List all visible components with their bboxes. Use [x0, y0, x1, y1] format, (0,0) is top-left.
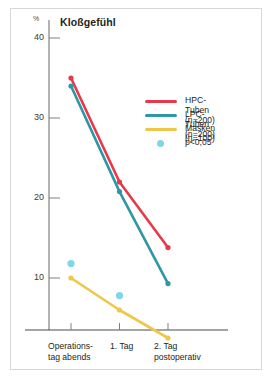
chart-plot	[0, 0, 274, 380]
data-point-2-0	[68, 275, 73, 280]
series-line-0	[71, 78, 168, 248]
series-line-1	[71, 86, 168, 284]
data-point-0-1	[117, 179, 122, 184]
significance-marker-1	[116, 292, 123, 299]
series-layer	[68, 75, 170, 340]
significance-marker-0	[67, 260, 74, 267]
axes	[25, 20, 228, 330]
data-point-1-2	[165, 281, 170, 286]
data-point-1-0	[68, 83, 73, 88]
data-point-2-1	[117, 307, 122, 312]
data-point-0-0	[68, 75, 73, 80]
y-axis-ticks	[49, 38, 60, 278]
data-point-2-2	[165, 335, 170, 340]
data-point-1-1	[117, 189, 122, 194]
data-point-0-2	[165, 245, 170, 250]
